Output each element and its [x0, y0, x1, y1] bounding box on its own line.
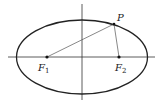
label-f2: F2	[114, 62, 126, 75]
label-f1: F1	[37, 62, 49, 75]
focus-f2-point	[117, 55, 120, 58]
focus-f1-point	[45, 55, 48, 58]
point-p	[113, 23, 116, 26]
label-p: P	[116, 12, 124, 23]
segment-p-f1	[47, 24, 114, 57]
segment-p-f2	[114, 24, 119, 57]
label-f1-subscript: 1	[45, 67, 49, 75]
ellipse-diagram: P F1 F2	[0, 0, 160, 106]
label-f2-subscript: 2	[122, 67, 126, 75]
